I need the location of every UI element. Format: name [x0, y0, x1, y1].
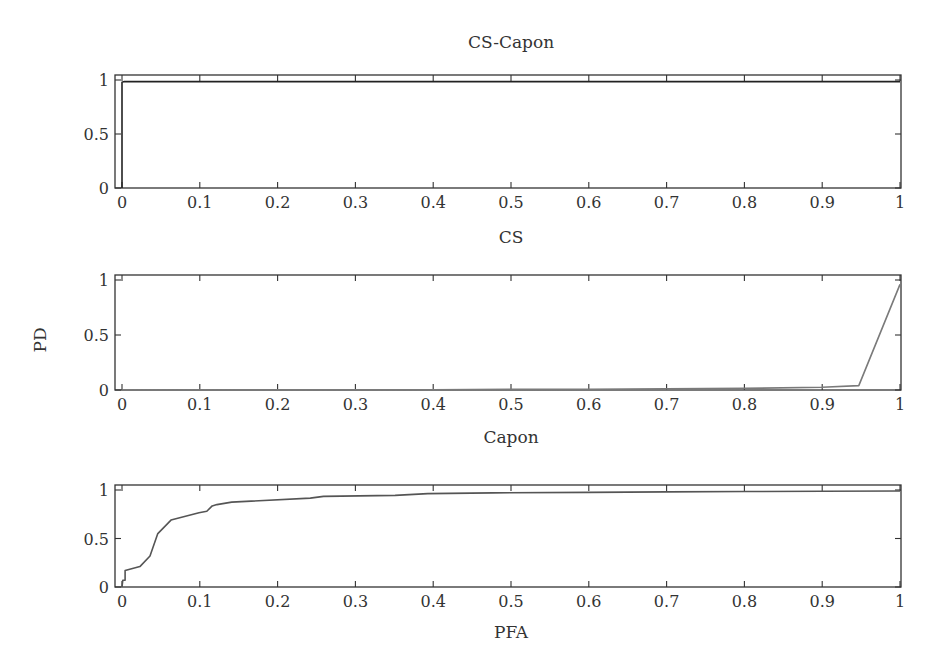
figure-xlabel: PFA	[494, 622, 529, 642]
y-tick-label: 0.5	[84, 326, 109, 345]
x-tick-label: 0.7	[654, 592, 679, 611]
x-tick-label: 0.9	[809, 592, 834, 611]
y-tick-label: 0	[99, 381, 109, 400]
x-tick-label: 0.3	[343, 193, 368, 212]
x-tick-label: 0.4	[420, 592, 445, 611]
x-tick-label: 0.8	[732, 592, 757, 611]
x-tick-label: 1	[895, 395, 905, 414]
y-tick-label: 1	[99, 271, 109, 290]
y-tick-label: 0.5	[84, 125, 109, 144]
x-tick-label: 1	[895, 592, 905, 611]
x-tick-label: 0.4	[420, 395, 445, 414]
series-line-cs	[122, 284, 900, 390]
x-tick-label: 1	[895, 193, 905, 212]
roc-figure: PD PFA CS-Capon00.10.20.30.40.50.60.70.8…	[0, 0, 951, 669]
x-tick-label: 0.7	[654, 395, 679, 414]
x-tick-label: 0.9	[809, 395, 834, 414]
series-line-capon	[122, 491, 900, 587]
x-tick-label: 0.3	[343, 592, 368, 611]
x-tick-label: 0	[117, 592, 127, 611]
x-tick-label: 0.5	[498, 592, 523, 611]
x-tick-label: 0.2	[265, 193, 290, 212]
y-tick-label: 1	[99, 481, 109, 500]
subplot-cs-capon: CS-Capon00.10.20.30.40.50.60.70.80.9100.…	[84, 32, 906, 212]
y-tick-label: 0	[99, 179, 109, 198]
x-tick-label: 0.6	[576, 395, 601, 414]
x-tick-label: 0.8	[732, 395, 757, 414]
x-tick-label: 0.1	[187, 592, 212, 611]
plot-frame	[115, 275, 901, 390]
x-tick-label: 0.6	[576, 193, 601, 212]
plot-frame	[115, 75, 901, 188]
x-tick-label: 0.7	[654, 193, 679, 212]
y-tick-label: 0.5	[84, 530, 109, 549]
x-tick-label: 0.4	[420, 193, 445, 212]
x-tick-label: 0.5	[498, 395, 523, 414]
y-tick-label: 0	[99, 578, 109, 597]
x-tick-label: 0	[117, 193, 127, 212]
x-tick-label: 0.3	[343, 395, 368, 414]
x-tick-label: 0.6	[576, 592, 601, 611]
x-tick-label: 0.8	[732, 193, 757, 212]
x-tick-label: 0.2	[265, 395, 290, 414]
x-tick-label: 0.2	[265, 592, 290, 611]
subplot-title: CS	[499, 227, 524, 247]
x-tick-label: 0.9	[809, 193, 834, 212]
x-tick-label: 0.1	[187, 193, 212, 212]
x-tick-label: 0.5	[498, 193, 523, 212]
subplot-cs: CS00.10.20.30.40.50.60.70.80.9100.51	[84, 227, 906, 414]
y-tick-label: 1	[99, 71, 109, 90]
x-tick-label: 0	[117, 395, 127, 414]
subplot-capon: Capon00.10.20.30.40.50.60.70.80.9100.51	[84, 427, 906, 611]
series-line-cs-capon	[122, 82, 900, 188]
plot-frame	[115, 485, 901, 587]
figure-ylabel: PD	[30, 327, 50, 352]
x-tick-label: 0.1	[187, 395, 212, 414]
subplot-title: Capon	[483, 427, 538, 447]
subplot-title: CS-Capon	[468, 32, 554, 52]
